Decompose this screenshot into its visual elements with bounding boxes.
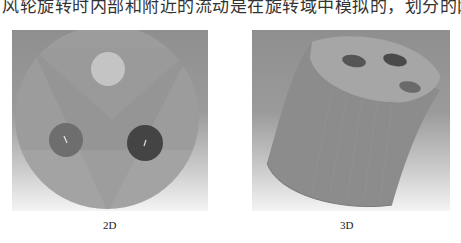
caption-2d: 2D — [103, 219, 116, 231]
mesh-3d-image — [252, 30, 450, 211]
figure-3d — [252, 30, 450, 211]
light-hole — [91, 52, 125, 86]
mesh-2d-image — [12, 30, 208, 211]
figure-2d — [12, 30, 208, 211]
body-text-partial: 风轮旋转时内部和附近的流动是在旋转域中模拟的，划分的网格如图 11-15 所示 — [2, 0, 461, 17]
caption-3d: 3D — [340, 219, 353, 231]
